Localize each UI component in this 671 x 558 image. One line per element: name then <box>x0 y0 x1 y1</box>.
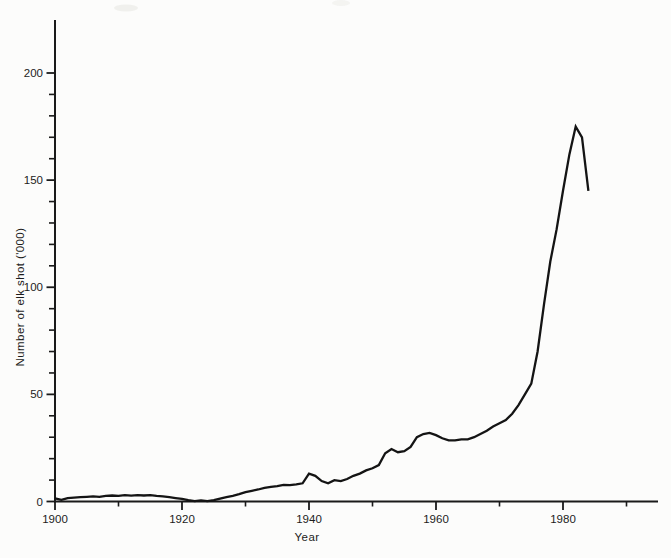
scan-smudge <box>332 0 350 6</box>
y-tick-label: 100 <box>24 281 43 293</box>
y-axis-title: Number of elk shot ('000) <box>14 228 26 367</box>
elk-harvest-series-line <box>55 127 588 502</box>
y-tick-label: 200 <box>24 67 43 79</box>
x-axis-title: Year <box>295 531 320 543</box>
x-tick-label: 1920 <box>169 513 195 525</box>
scan-smudge <box>114 5 138 12</box>
y-tick-label: 150 <box>24 174 43 186</box>
x-tick-label: 1960 <box>423 513 449 525</box>
x-tick-label: 1980 <box>550 513 576 525</box>
figure-page: 05010015020019001920194019601980 Number … <box>0 0 671 558</box>
y-tick-label: 0 <box>37 496 43 508</box>
y-tick-label: 50 <box>30 388 43 400</box>
elk-line-chart: 05010015020019001920194019601980 <box>0 0 671 558</box>
x-tick-label: 1900 <box>42 513 68 525</box>
x-tick-label: 1940 <box>296 513 322 525</box>
